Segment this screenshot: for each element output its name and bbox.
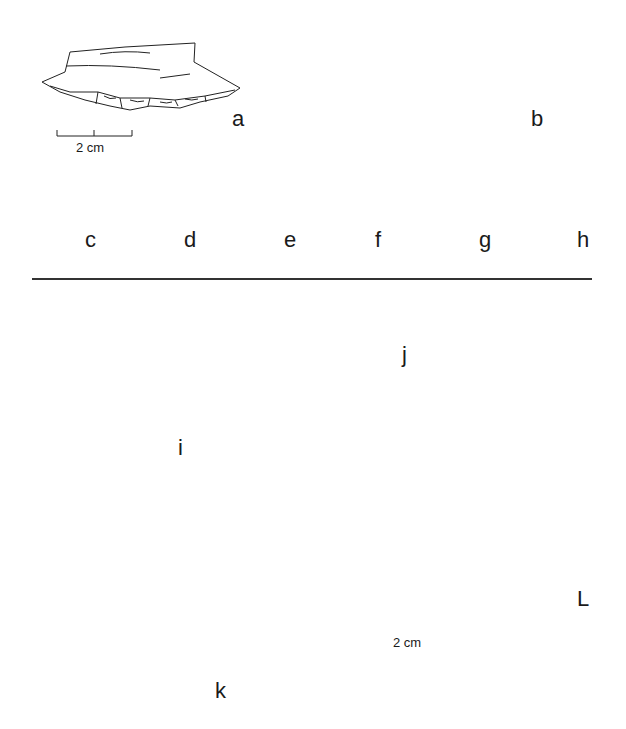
label-L: L	[577, 588, 589, 610]
scale-label-lower: 2 cm	[393, 636, 421, 649]
label-j: j	[402, 344, 407, 366]
label-c: c	[85, 229, 96, 251]
scale-bar-upper	[57, 130, 132, 136]
label-h: h	[577, 229, 589, 251]
label-i: i	[178, 437, 183, 459]
label-k: k	[215, 680, 226, 702]
label-a: a	[232, 108, 244, 130]
scale-label-upper: 2 cm	[76, 141, 104, 154]
panel-divider	[32, 278, 592, 280]
label-f: f	[375, 229, 381, 251]
label-e: e	[284, 229, 296, 251]
label-g: g	[479, 229, 491, 251]
label-b: b	[531, 108, 543, 130]
label-d: d	[184, 229, 196, 251]
figure-a-flake	[42, 43, 240, 110]
